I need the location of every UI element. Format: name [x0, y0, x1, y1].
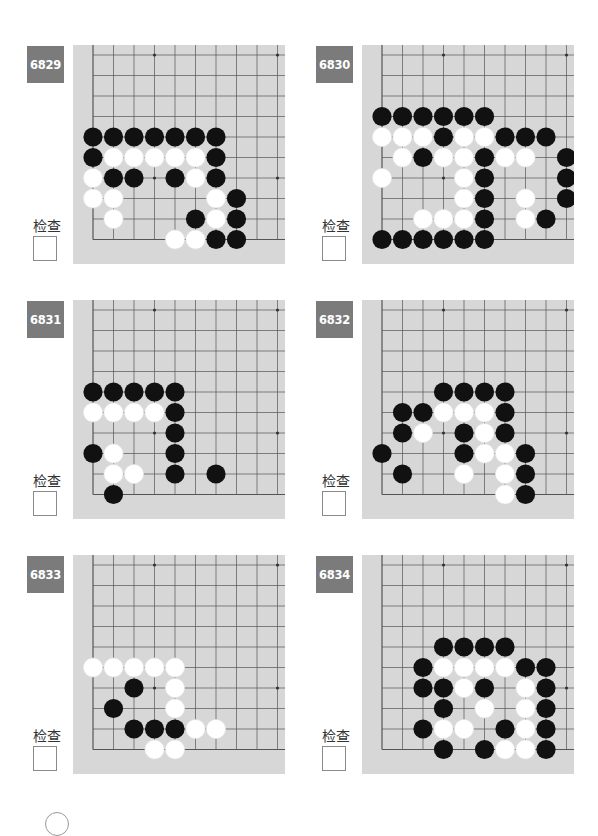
black-stone	[434, 107, 453, 126]
check-label: 检查	[322, 470, 350, 490]
white-stone	[104, 444, 123, 463]
black-stone	[536, 719, 555, 738]
check-box[interactable]	[322, 746, 346, 771]
problem-number-badge: 6831	[27, 301, 64, 338]
check-box[interactable]	[322, 491, 346, 516]
check-label: 检查	[33, 470, 61, 490]
white-stone	[434, 148, 453, 167]
black-stone	[104, 485, 123, 504]
star-point-icon	[153, 176, 156, 179]
check-label: 检查	[322, 215, 350, 235]
black-stone	[124, 168, 143, 187]
black-stone	[495, 382, 514, 401]
black-stone	[536, 678, 555, 697]
black-stone	[165, 444, 184, 463]
black-stone	[495, 719, 514, 738]
star-point-icon	[276, 563, 279, 566]
star-point-icon	[153, 686, 156, 689]
white-stone	[454, 678, 473, 697]
black-stone	[393, 403, 412, 422]
black-stone	[227, 209, 246, 228]
black-stone	[434, 637, 453, 656]
white-stone	[145, 148, 164, 167]
white-stone	[454, 209, 473, 228]
problem-number-badge: 6829	[27, 46, 64, 83]
white-stone	[495, 444, 514, 463]
problem-6833: 6833 检查	[27, 555, 317, 780]
white-stone	[475, 403, 494, 422]
star-point-icon	[442, 176, 445, 179]
black-stone	[536, 209, 555, 228]
white-stone	[413, 127, 432, 146]
black-stone	[516, 127, 535, 146]
black-stone	[495, 637, 514, 656]
white-stone	[454, 189, 473, 208]
black-stone	[83, 127, 102, 146]
white-stone	[516, 189, 535, 208]
white-stone	[454, 464, 473, 483]
black-stone	[475, 230, 494, 249]
white-stone	[206, 209, 225, 228]
black-stone	[475, 168, 494, 187]
white-stone	[454, 148, 473, 167]
white-stone	[475, 699, 494, 718]
black-stone	[206, 464, 225, 483]
star-point-icon	[153, 53, 156, 56]
white-stone	[393, 127, 412, 146]
black-stone	[206, 230, 225, 249]
white-stone	[124, 464, 143, 483]
black-stone	[227, 230, 246, 249]
check-box[interactable]	[33, 746, 57, 771]
white-stone	[454, 719, 473, 738]
black-stone	[145, 382, 164, 401]
check-box[interactable]	[322, 236, 346, 261]
black-stone	[145, 719, 164, 738]
white-stone	[165, 699, 184, 718]
check-label: 检查	[33, 215, 61, 235]
black-stone	[372, 444, 391, 463]
white-stone	[516, 678, 535, 697]
white-stone	[186, 168, 205, 187]
black-stone	[165, 382, 184, 401]
black-stone	[413, 230, 432, 249]
white-stone	[104, 403, 123, 422]
white-stone	[104, 209, 123, 228]
white-stone	[393, 148, 412, 167]
board-grid	[73, 45, 285, 264]
black-stone	[454, 382, 473, 401]
star-point-icon	[276, 308, 279, 311]
star-point-icon	[565, 53, 568, 56]
black-stone	[413, 678, 432, 697]
black-stone	[495, 423, 514, 442]
check-box[interactable]	[33, 491, 57, 516]
check-label: 检查	[33, 725, 61, 745]
star-point-icon	[442, 431, 445, 434]
board-grid	[73, 555, 285, 774]
white-stone	[104, 148, 123, 167]
black-stone	[393, 230, 412, 249]
black-stone	[516, 658, 535, 677]
board-grid	[73, 300, 285, 519]
star-point-icon	[565, 686, 568, 689]
black-stone	[124, 127, 143, 146]
star-point-icon	[565, 563, 568, 566]
check-box[interactable]	[33, 236, 57, 261]
go-board	[73, 555, 285, 774]
black-stone	[186, 127, 205, 146]
white-stone	[454, 127, 473, 146]
star-point-icon	[442, 53, 445, 56]
star-point-icon	[276, 431, 279, 434]
go-board	[362, 45, 574, 264]
problem-number-badge: 6833	[27, 556, 64, 593]
white-stone	[83, 189, 102, 208]
black-stone	[186, 209, 205, 228]
white-stone	[104, 464, 123, 483]
white-stone	[124, 658, 143, 677]
white-stone	[145, 403, 164, 422]
black-stone	[454, 230, 473, 249]
black-stone	[536, 699, 555, 718]
black-stone	[434, 230, 453, 249]
black-stone	[475, 678, 494, 697]
black-stone	[165, 719, 184, 738]
white-stone	[475, 444, 494, 463]
